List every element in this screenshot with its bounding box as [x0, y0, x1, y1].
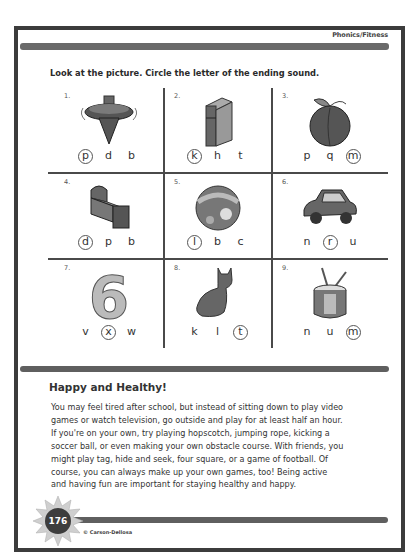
choice-letter[interactable]: b [210, 235, 225, 250]
choice-letter[interactable]: b [124, 235, 139, 250]
exercise-item-3: 3. pqm [272, 88, 388, 172]
mid-divider-bar [20, 366, 389, 372]
item-number: 6. [282, 178, 288, 186]
choice-letter[interactable]: c [233, 235, 248, 250]
choice-letter[interactable]: u [323, 325, 338, 340]
item-number: 9. [282, 264, 288, 272]
number-six-icon: 6 [79, 266, 139, 322]
letter-choices: lbc [164, 235, 271, 250]
letter-choices: pdb [54, 149, 163, 164]
paragraph-line: might play tag, hide and seek, four squa… [51, 453, 391, 466]
page-number-badge: 176 [33, 496, 83, 546]
paragraph-line: and having fun are important for staying… [51, 478, 391, 491]
exercise-item-8: 8. klt [164, 260, 271, 348]
letter-choices: klt [164, 325, 271, 340]
article-paragraph: You may feel tired after school, but ins… [51, 401, 391, 491]
copyright: © Carson-Dellosa [83, 529, 132, 535]
instructions: Look at the picture. Circle the letter o… [50, 68, 319, 78]
spinning-top-icon [79, 94, 139, 150]
exercise-item-7: 7. 6 vxw [54, 260, 163, 348]
choice-letter[interactable]: w [124, 325, 139, 340]
paragraph-line: games or watch television, go outside an… [51, 414, 391, 427]
item-number: 8. [174, 264, 180, 272]
item-number: 4. [64, 178, 70, 186]
choice-letter[interactable]: d [78, 235, 93, 250]
footer-bar [72, 517, 388, 523]
exercise-item-2: 2. kht [164, 88, 271, 172]
choice-letter[interactable]: l [187, 235, 202, 250]
section-label: Phonics/Fitness [332, 31, 388, 39]
choice-letter[interactable]: b [124, 149, 139, 164]
choice-letter[interactable]: l [210, 325, 225, 340]
item-number: 3. [282, 92, 288, 100]
choice-letter[interactable]: u [346, 235, 361, 250]
exercise-item-4: 4. dpb [54, 174, 163, 258]
choice-letter[interactable]: p [78, 149, 93, 164]
choice-letter[interactable]: r [323, 235, 338, 250]
bed-icon [79, 180, 139, 236]
paragraph-line: course, you can always make up your own … [51, 466, 391, 479]
svg-text:6: 6 [88, 266, 128, 322]
item-number: 2. [174, 92, 180, 100]
paragraph-line: You may feel tired after school, but ins… [51, 401, 391, 414]
choice-letter[interactable]: m [346, 325, 361, 340]
choice-letter[interactable]: m [346, 149, 361, 164]
drum-icon [300, 266, 360, 322]
choice-letter[interactable]: k [187, 149, 202, 164]
choice-letter[interactable]: d [101, 149, 116, 164]
article-heading: Happy and Healthy! [49, 381, 167, 393]
item-number: 1. [64, 92, 70, 100]
letter-choices: pqm [272, 149, 388, 164]
exercise-item-6: 6. nru [272, 174, 388, 258]
choice-letter[interactable]: q [323, 149, 338, 164]
item-number: 5. [174, 178, 180, 186]
exercise-grid: 1. pdb 2. kht 3. [54, 88, 388, 348]
peach-icon [300, 94, 360, 150]
exercise-item-1: 1. pdb [54, 88, 163, 172]
choice-letter[interactable]: t [233, 149, 248, 164]
exercise-item-9: 9. num [272, 260, 388, 348]
paragraph-line: soccer ball, or even making your own obs… [51, 440, 391, 453]
choice-letter[interactable]: v [78, 325, 93, 340]
cat-icon [188, 266, 248, 322]
choice-letter[interactable]: n [300, 325, 315, 340]
ball-icon [188, 180, 248, 236]
book-icon [188, 94, 248, 150]
choice-letter[interactable]: x [101, 325, 116, 340]
choice-letter[interactable]: k [187, 325, 202, 340]
item-number: 7. [64, 264, 70, 272]
choice-letter[interactable]: t [233, 325, 248, 340]
letter-choices: num [272, 325, 388, 340]
choice-letter[interactable]: n [300, 235, 315, 250]
paragraph-line: If you're on your own, try playing hopsc… [51, 427, 391, 440]
choice-letter[interactable]: p [300, 149, 315, 164]
letter-choices: dpb [54, 235, 163, 250]
letter-choices: kht [164, 149, 271, 164]
exercise-item-5: 5. lbc [164, 174, 271, 258]
choice-letter[interactable]: h [210, 149, 225, 164]
letter-choices: vxw [54, 325, 163, 340]
car-icon [300, 180, 360, 236]
choice-letter[interactable]: p [101, 235, 116, 250]
letter-choices: nru [272, 235, 388, 250]
top-divider-bar [20, 43, 389, 50]
page-number: 176 [45, 508, 71, 534]
